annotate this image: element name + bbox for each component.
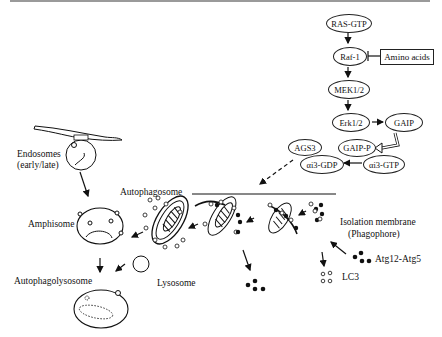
node-ai3-gtp: αi3-GTP bbox=[363, 155, 405, 174]
label-autophagosome: Autophagosome bbox=[120, 187, 182, 198]
node-gaip: GAIP bbox=[385, 113, 423, 132]
label-isolation-membrane: Isolation membrane bbox=[340, 217, 416, 228]
node-ags3: AGS3 bbox=[288, 139, 322, 156]
node-ras-gtp: RAS-GTP bbox=[326, 14, 372, 33]
node-ai3-gdp: αi3-GDP bbox=[300, 155, 344, 174]
label-lc3: LC3 bbox=[342, 272, 359, 283]
node-amino-acids: Amino acids bbox=[380, 49, 434, 65]
label-lysosome: Lysosome bbox=[157, 278, 196, 289]
node-raf-1: Raf-1 bbox=[333, 47, 367, 66]
node-mek12: MEK1/2 bbox=[328, 80, 370, 99]
node-erk12: Erk1/2 bbox=[332, 113, 370, 132]
label-autophagolysosome: Autophagolysosome bbox=[14, 276, 92, 287]
label-endosomes-sub: (early/late) bbox=[17, 160, 59, 171]
autophagy-pathway-diagram: RAS-GTP Raf-1 Amino acids MEK1/2 Erk1/2 … bbox=[0, 0, 442, 337]
label-atg12-atg5: Atg12-Atg5 bbox=[375, 254, 421, 265]
node-gaip-p: GAIP-P bbox=[338, 139, 376, 157]
label-phagophore: (Phagophore) bbox=[348, 229, 400, 240]
label-amphisome: Amphisome bbox=[28, 219, 74, 230]
label-endosomes: Endosomes bbox=[17, 149, 61, 160]
